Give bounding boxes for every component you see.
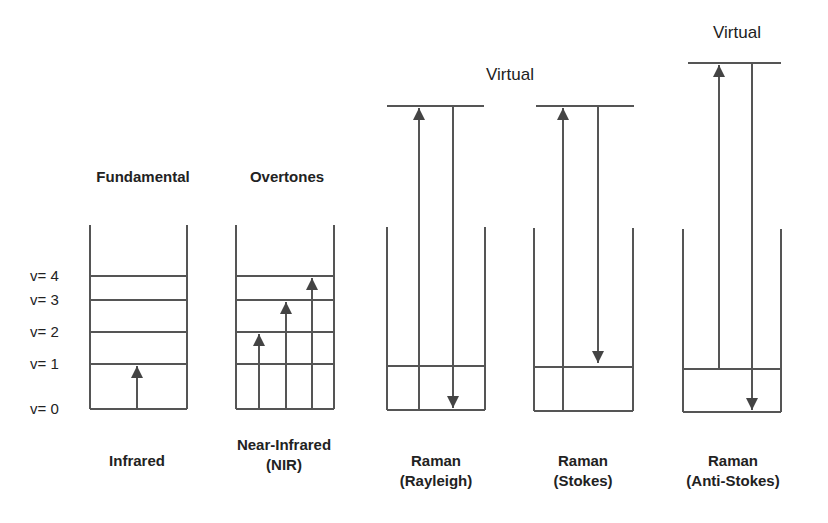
technique-label: Infrared [109,452,165,469]
overtones-label: Overtones [250,168,324,185]
virtual-label: Virtual [486,65,534,84]
arrow-down-icon [592,351,604,363]
vibrational-level-label: v= 3 [30,291,59,308]
fundamental-label: Fundamental [96,168,189,185]
technique-label: Near-Infrared [237,436,331,453]
technique-label: (Anti-Stokes) [686,472,779,489]
technique-label: (NIR) [266,456,302,473]
vibrational-level-label: v= 4 [30,267,59,284]
technique-label: Raman [411,452,461,469]
arrow-up-icon [413,108,425,120]
arrow-up-icon [713,65,725,77]
arrow-down-icon [447,396,459,408]
arrow-up-icon [253,334,265,346]
arrow-up-icon [131,366,143,378]
technique-label: Raman [558,452,608,469]
arrow-up-icon [280,302,292,314]
arrow-up-icon [557,108,569,120]
virtual-label: Virtual [713,23,761,42]
arrow-down-icon [746,398,758,410]
vibrational-level-label: v= 0 [30,400,59,417]
technique-label: (Stokes) [553,472,612,489]
technique-label: (Rayleigh) [400,472,473,489]
diagram-canvas: v= 4v= 3v= 2v= 1v= 0FundamentalOvertones… [0,0,828,523]
arrow-up-icon [306,278,318,290]
technique-label: Raman [708,452,758,469]
vibrational-level-label: v= 1 [30,355,59,372]
vibrational-level-label: v= 2 [30,323,59,340]
energy-level-diagram: v= 4v= 3v= 2v= 1v= 0FundamentalOvertones… [0,0,828,523]
